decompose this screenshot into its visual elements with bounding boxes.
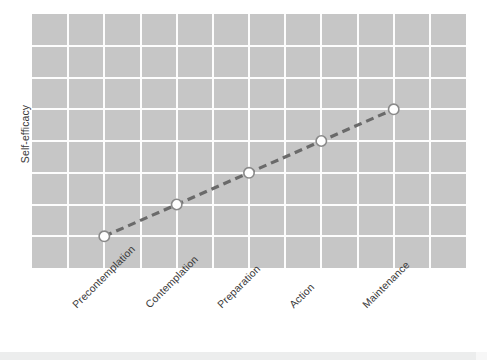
y-axis-title: Self-efficacy	[19, 74, 31, 194]
data-point-marker	[389, 104, 399, 114]
data-point-marker	[316, 136, 326, 146]
data-point-marker	[244, 168, 254, 178]
chart-figure: Self-efficacy PrecontemplationContemplat…	[0, 0, 487, 363]
data-point-marker	[172, 199, 182, 209]
data-series-layer	[32, 14, 466, 268]
plot-area	[32, 14, 466, 268]
scan-artifact-cap	[476, 352, 487, 360]
series-markers	[99, 104, 399, 241]
data-point-marker	[99, 231, 109, 241]
scan-artifact-strip	[0, 352, 487, 360]
x-tick-label-2: Preparation	[215, 263, 263, 311]
x-tick-label-3: Action	[287, 281, 317, 311]
